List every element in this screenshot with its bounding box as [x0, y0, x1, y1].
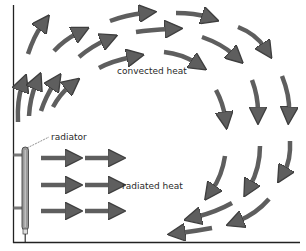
convection-arrow-descending [252, 80, 258, 112]
convection-arrow-lower [284, 141, 290, 172]
convection-arrow-rising [29, 84, 36, 116]
convected-heat-label: convected heat [117, 66, 187, 76]
convection-arrow-rising [18, 86, 22, 122]
radiator-label: radiator [51, 132, 87, 142]
convection-arrow-descending [216, 90, 225, 117]
convection-arrow-returning [180, 228, 212, 233]
convection-arrow-lower [212, 156, 225, 190]
radiated-heat-label: radiated heat [122, 181, 183, 191]
convection-arrow-returning [238, 199, 269, 221]
convection-arrow-returning [196, 203, 232, 217]
convection-arrow-lower [250, 146, 260, 186]
convection-arrow-top [238, 27, 265, 48]
radiator [14, 137, 50, 242]
convection-arrow-upper-left [28, 25, 42, 54]
convection-arrow-upper-left [54, 33, 78, 51]
convection-arrow-top [136, 29, 170, 32]
heat-circulation-diagram: radiator convected heat radiated heat [0, 0, 306, 251]
diagram-canvas [0, 0, 306, 251]
convection-arrow-top [176, 13, 207, 17]
radiated-heat-arrows [41, 158, 113, 211]
convection-arrow-top [110, 13, 144, 21]
radiator-valve [23, 229, 28, 234]
convection-arrow-rising [41, 84, 54, 111]
convection-arrow-top [202, 37, 234, 55]
convection-arrow-upper-left [79, 40, 106, 57]
radiator-leader-line [27, 137, 49, 148]
convection-arrow-top [164, 52, 196, 63]
convection-arrow-descending [282, 76, 289, 112]
convected-heat-arrows [18, 13, 290, 233]
convection-arrow-rising [53, 86, 70, 107]
